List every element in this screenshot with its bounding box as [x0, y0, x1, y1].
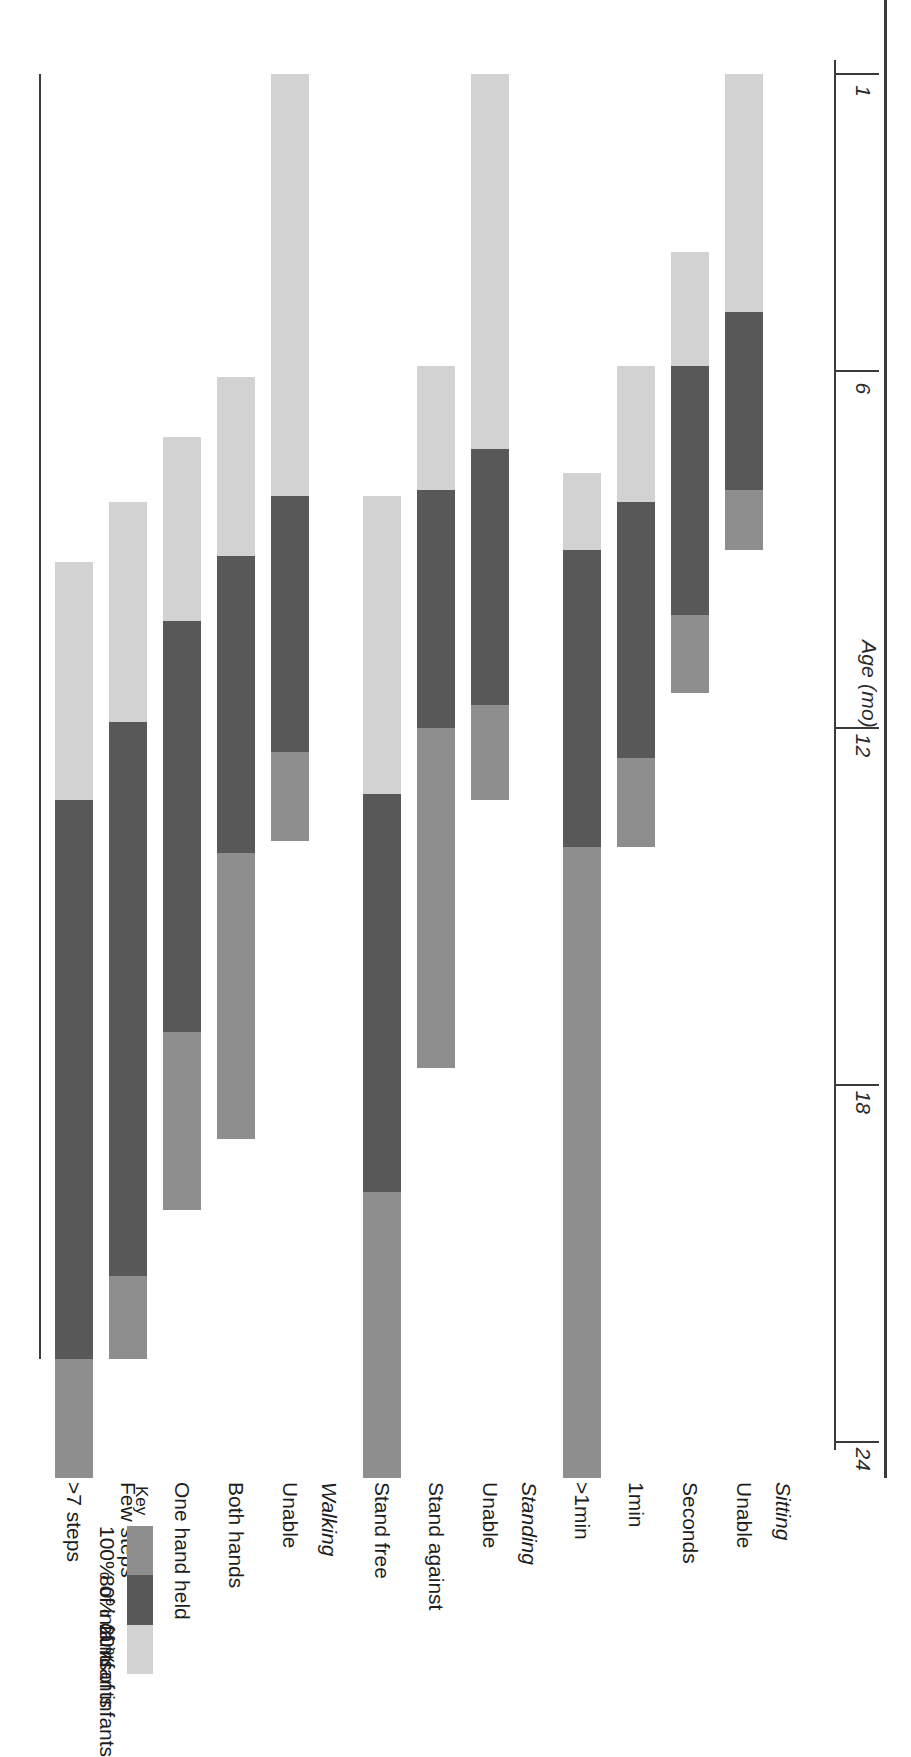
bar-segment	[671, 366, 709, 616]
group-label-walking: Walking	[317, 1482, 341, 1556]
row-label-both-hands: Both hands	[224, 1482, 248, 1588]
bar-segment	[471, 705, 509, 800]
bar-segment	[109, 1276, 147, 1359]
axis-tick-18	[835, 1084, 879, 1086]
bar-segment	[725, 74, 763, 312]
bar-segment	[163, 437, 201, 621]
bar-segment	[471, 449, 509, 705]
bar-segment	[363, 794, 401, 1193]
bar-segment	[55, 1359, 93, 1478]
bar-segment	[55, 800, 93, 1359]
bar-segment	[563, 473, 601, 550]
bar-segment	[617, 366, 655, 503]
legend-label-2: 20% of infants	[95, 1624, 119, 1757]
bar-segment	[471, 74, 509, 449]
bar-segment	[563, 550, 601, 847]
group-label-standing: Standing	[517, 1482, 541, 1565]
bar-segment	[617, 502, 655, 758]
axis-title: Age (mo)	[857, 640, 881, 728]
baseline-rule	[39, 74, 41, 1359]
row-label-unable: Unable	[478, 1482, 502, 1549]
axis-tick-label-18: 18	[851, 1091, 875, 1114]
axis-tick-24	[835, 1441, 879, 1443]
bar-segment	[217, 853, 255, 1139]
legend-swatch-2	[127, 1625, 153, 1674]
bar-segment	[217, 377, 255, 555]
bar-segment	[725, 312, 763, 490]
row-label-1min: >1min	[570, 1482, 594, 1540]
bar-segment	[417, 366, 455, 491]
bar-segment	[363, 496, 401, 793]
bar-segment	[563, 847, 601, 1478]
bar-segment	[271, 496, 309, 752]
bar-segment	[55, 562, 93, 800]
bar-segment	[363, 1192, 401, 1478]
row-label-7-steps: >7 steps	[62, 1482, 86, 1562]
bar-segment	[163, 621, 201, 1031]
row-label-unable: Unable	[278, 1482, 302, 1549]
bar-segment	[109, 502, 147, 722]
axis-tick-label-6: 6	[851, 383, 875, 395]
group-label-sitting: Sitting	[771, 1482, 795, 1540]
axis-tick-label-12: 12	[851, 734, 875, 757]
bar-segment	[617, 758, 655, 847]
axis-tick-6	[835, 370, 879, 372]
row-label-unable: Unable	[732, 1482, 756, 1549]
axis-tick-label-24: 24	[851, 1448, 875, 1471]
row-label-stand-against: Stand against	[424, 1482, 448, 1610]
bar-segment	[725, 490, 763, 549]
legend-swatches	[127, 1526, 153, 1674]
axis-tick-label-1: 1	[851, 85, 875, 97]
figure-top-rule	[884, 0, 887, 1478]
bar-segment	[671, 615, 709, 692]
legend-swatch-0	[127, 1526, 153, 1575]
axis-tick-12	[835, 727, 879, 729]
bar-segment	[417, 728, 455, 1067]
row-label-one-hand-held: One hand held	[170, 1482, 194, 1620]
row-label-seconds: Seconds	[678, 1482, 702, 1564]
bar-segment	[217, 556, 255, 853]
bar-segment	[163, 1032, 201, 1210]
bar-segment	[671, 252, 709, 365]
legend-title: Key	[131, 1486, 151, 1515]
legend-swatch-1	[127, 1575, 153, 1624]
row-label-1min: 1min	[624, 1482, 648, 1528]
bar-segment	[417, 490, 455, 728]
bar-segment	[109, 722, 147, 1275]
bar-segment	[271, 752, 309, 841]
row-label-stand-free: Stand free	[370, 1482, 394, 1579]
axis-rule	[834, 60, 836, 1450]
axis-tick-1	[835, 73, 879, 75]
bar-segment	[271, 74, 309, 496]
